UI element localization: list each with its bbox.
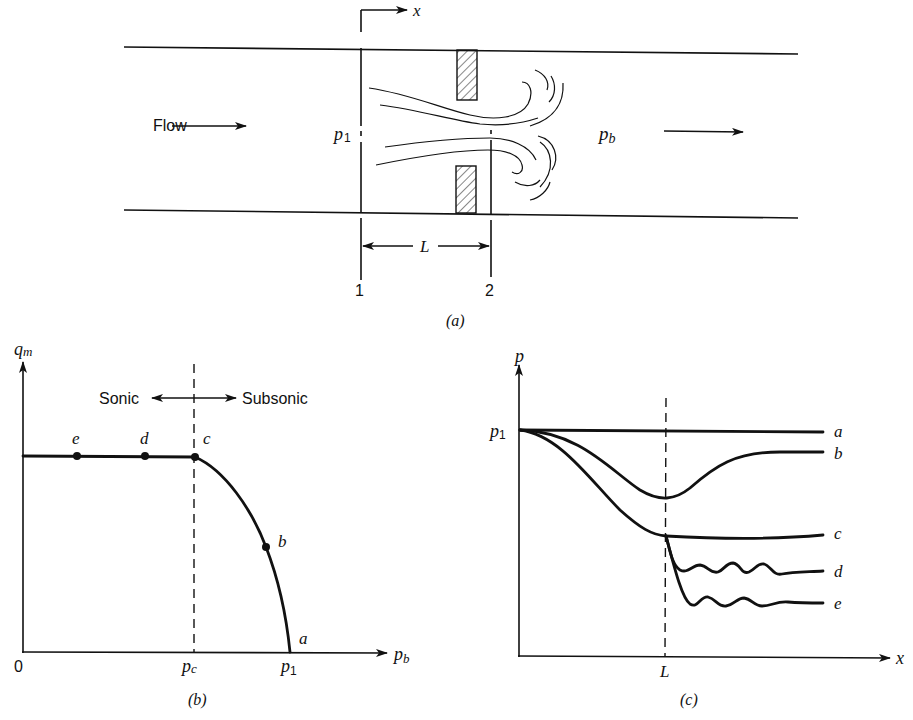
subsonic-label: Subsonic (242, 390, 308, 407)
curve-b (520, 430, 823, 498)
caption-a: (a) (446, 312, 465, 330)
x-axis-b (22, 652, 387, 653)
curve-a-label: a (834, 422, 843, 441)
qm-axis-label: qm (14, 339, 32, 359)
curve-d-label: d (834, 562, 843, 581)
p1-tick-label-c: p1 (488, 421, 506, 442)
curve-b-label: b (834, 444, 843, 463)
x-direction-label: x (412, 1, 421, 20)
x-axis-c (518, 656, 890, 658)
pb-axis-label: pb (392, 644, 410, 666)
point-d-label: d (140, 429, 149, 448)
length-label: L (419, 237, 429, 256)
curve-d (666, 536, 823, 574)
x-axis-label-c: x (895, 648, 904, 668)
point-c-label: c (203, 429, 211, 448)
point-a-label: a (299, 629, 308, 648)
point-d (141, 452, 149, 460)
figure-b-massflow-chart: qm pb 0 pc p1 Sonic Subsonic e d c b a (… (14, 339, 410, 709)
pb-label: pb (597, 123, 616, 146)
point-e-label: e (72, 429, 80, 448)
point-b (262, 543, 270, 551)
station-2-label: 2 (485, 282, 494, 299)
curve-c-label: c (834, 524, 842, 543)
pb-flow-arrow (664, 131, 743, 132)
caption-c: (c) (680, 691, 698, 709)
p1-tick-label-b: p1 (279, 656, 297, 678)
station-1-label: 1 (355, 282, 364, 299)
p1-label-a: p1 (332, 124, 351, 145)
caption-b: (b) (188, 691, 207, 709)
orifice-plate-top (457, 50, 477, 100)
p-axis-label: p (513, 346, 524, 366)
pc-tick-label: pc (180, 656, 197, 676)
point-e (73, 452, 81, 460)
point-b-label: b (278, 532, 287, 551)
L-tick-label: L (659, 662, 669, 681)
curve-c (520, 430, 823, 538)
massflow-curve (23, 456, 290, 652)
sonic-label: Sonic (99, 390, 139, 407)
orifice-plate-bottom (456, 166, 476, 213)
curve-a (520, 430, 823, 432)
L-dashed-line (665, 398, 666, 656)
point-c (191, 453, 199, 461)
figure-c-pressure-chart: p x p1 L a b c d e (c) (488, 346, 904, 709)
figure-a-pipe-diagram: x Flow p1 (124, 1, 798, 330)
figure-canvas: x Flow p1 (0, 0, 913, 720)
origin-label: 0 (14, 658, 23, 675)
curve-e-label: e (834, 594, 842, 613)
